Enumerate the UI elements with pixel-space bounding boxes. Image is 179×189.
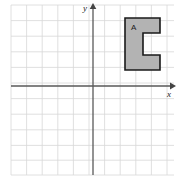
y-axis-arrowhead [90, 3, 97, 9]
y-axis-label: y [82, 3, 87, 13]
shape-label-a: A [131, 23, 137, 32]
x-axis-label: x [166, 89, 171, 99]
coordinate-grid-figure: x y A [0, 0, 179, 189]
axes [11, 9, 170, 175]
coordinate-plane-svg: x y A [0, 0, 179, 189]
